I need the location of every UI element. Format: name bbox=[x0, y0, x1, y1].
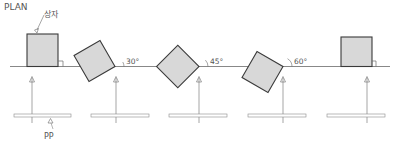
pp-pointer-icon bbox=[48, 119, 53, 124]
box-45-deg bbox=[157, 45, 199, 87]
picture-plane-bar bbox=[91, 114, 149, 117]
plan-diagram: PLAN 상자 30° 45° 60° PP bbox=[0, 0, 400, 150]
leader-arrow-icon bbox=[35, 29, 39, 34]
box-90-deg bbox=[341, 37, 376, 67]
angle-arc-45 bbox=[205, 60, 208, 66]
angle-label-60: 60° bbox=[294, 57, 308, 66]
angle-label-45: 45° bbox=[210, 57, 224, 66]
picture-plane-bar bbox=[248, 114, 306, 117]
box-0-deg bbox=[27, 34, 63, 67]
pp-leader-line bbox=[51, 123, 53, 129]
picture-planes bbox=[14, 114, 385, 117]
box-60-deg bbox=[242, 52, 283, 93]
picture-plane-bar bbox=[14, 114, 71, 117]
picture-plane-bar bbox=[169, 114, 227, 117]
angle-label-30: 30° bbox=[126, 57, 140, 66]
angle-arc-60 bbox=[288, 59, 293, 67]
angle-arc-30 bbox=[123, 62, 124, 67]
box-label: 상자 bbox=[44, 9, 59, 19]
plan-title: PLAN bbox=[4, 2, 28, 12]
box-leader-line bbox=[37, 15, 44, 30]
pp-label: PP bbox=[44, 132, 54, 141]
box-30-deg bbox=[74, 41, 115, 82]
right-angle-mark bbox=[58, 61, 63, 67]
picture-plane-bar bbox=[327, 114, 385, 117]
right-angle-mark bbox=[372, 61, 376, 67]
